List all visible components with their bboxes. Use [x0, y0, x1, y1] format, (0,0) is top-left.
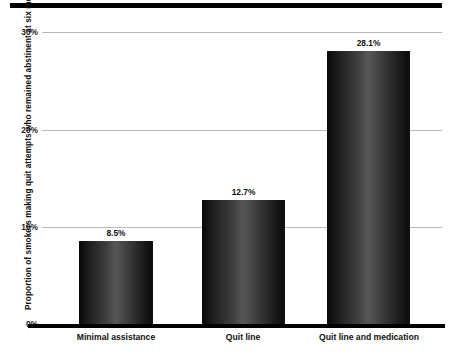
plot-area: 30% 20% 10% 0% 8.5% 12.7% 28.1% Minimal …: [42, 20, 445, 327]
bar-quit-line-and-medication[interactable]: 28.1%: [327, 51, 410, 324]
bar-value-quit-line: 12.7%: [232, 187, 256, 197]
bar-value-quit-line-and-medication: 28.1%: [357, 38, 381, 48]
y-tick-label-30: 30%: [21, 27, 38, 37]
y-tick-label-10: 10%: [21, 222, 38, 232]
x-tick-label-quit-line-and-medication: Quit line and medication: [319, 332, 419, 342]
y-tick-label-20: 20%: [21, 125, 38, 135]
x-tick-label-minimal-assistance: Minimal assistance: [77, 332, 155, 342]
x-tick-label-quit-line: Quit line: [226, 332, 260, 342]
gridline-30: 30%: [42, 32, 442, 33]
x-axis-baseline: [28, 324, 445, 328]
bar-chart: Proportion of smokers making quit attemp…: [0, 0, 452, 354]
bar-minimal-assistance[interactable]: 8.5%: [79, 241, 153, 324]
top-rule-divider: [10, 3, 442, 8]
bar-quit-line[interactable]: 12.7%: [202, 200, 285, 324]
bar-value-minimal-assistance: 8.5%: [106, 228, 125, 238]
y-axis-title: Proportion of smokers making quit attemp…: [24, 20, 34, 310]
